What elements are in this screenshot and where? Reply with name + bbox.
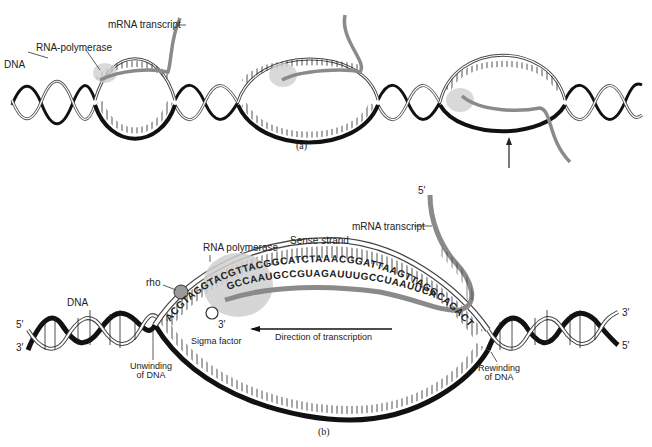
dna-helix-left <box>28 310 158 350</box>
mrna-transcript-label-b: mRNA transcript <box>352 222 425 232</box>
caption-b: (b) <box>318 426 330 437</box>
three-prime-right: 3′ <box>622 308 629 318</box>
leader-line <box>163 285 176 290</box>
transcription-bubble-3 <box>440 55 570 162</box>
three-prime-mrna: 3′ <box>218 320 225 330</box>
rho-label: rho <box>146 278 160 288</box>
figure-drawing: ACGTAGGTACGTTACGGCATCTAAACGGATTAAGTTAGGC… <box>0 0 652 447</box>
unwinding-label: Unwinding of DNA <box>130 362 172 380</box>
leader-line <box>86 50 100 70</box>
five-prime-right: 5′ <box>622 341 629 351</box>
unwinding-line2: of DNA <box>137 370 166 380</box>
transcription-bubble-2 <box>238 15 378 143</box>
rewinding-line2: of DNA <box>485 372 514 382</box>
panel-b: ACGTAGGTACGTTACGGCATCTAAACGGATTAAGTTAGGC… <box>28 195 618 420</box>
arrow-up-icon <box>506 137 512 168</box>
sigma-factor <box>206 307 218 319</box>
dna-label-b: DNA <box>67 298 88 308</box>
sense-strand-label: Sense strand <box>290 236 349 246</box>
leader-line <box>491 352 497 362</box>
rna-polymerase-label-a: RNA-polymerase <box>36 43 112 53</box>
dna-label-a: DNA <box>4 60 25 70</box>
dna-helix-right <box>488 310 618 350</box>
caption-a: (a) <box>296 140 307 151</box>
five-prime-left: 5′ <box>16 320 23 330</box>
direction-label: Direction of transcription <box>275 333 372 342</box>
transcription-bubble-1 <box>93 18 180 139</box>
sigma-factor-label: Sigma factor <box>191 337 242 346</box>
panel-a <box>12 15 642 168</box>
rewinding-label: Rewinding of DNA <box>478 364 520 382</box>
three-prime-left: 3′ <box>16 343 23 353</box>
five-prime-mrna: 5′ <box>418 186 425 196</box>
transcription-figure: ACGTAGGTACGTTACGGCATCTAAACGGATTAAGTTAGGC… <box>0 0 652 447</box>
rna-polymerase-label-b: RNA polymerase <box>203 243 278 253</box>
mrna-transcript-label-a: mRNA transcript <box>108 20 181 30</box>
